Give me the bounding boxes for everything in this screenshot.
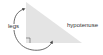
legs-label: legs	[8, 23, 19, 29]
hypotenuse-label: hypotenuse	[67, 22, 98, 28]
leg-arrow-vertical	[14, 9, 24, 24]
right-triangle-diagram: legs hypotenuse	[0, 0, 103, 55]
